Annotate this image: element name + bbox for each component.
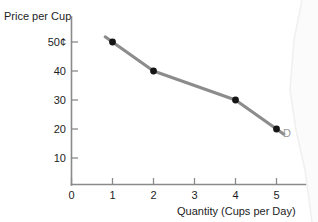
y-tick-label-40: 40: [54, 65, 66, 77]
x-tick-label-5: 5: [273, 189, 279, 201]
chart-background: [0, 0, 318, 222]
x-tick-label-0: 0: [68, 189, 74, 201]
y-tick-label-10: 10: [54, 152, 66, 164]
y-axis-title: Price per Cup: [4, 10, 71, 22]
data-point-marker: [109, 39, 116, 46]
x-axis-title: Quantity (Cups per Day): [177, 205, 296, 217]
data-point-marker: [232, 97, 239, 104]
y-tick-label-50: 50¢: [48, 36, 66, 48]
x-tick-label-4: 4: [232, 189, 238, 201]
chart-screenshot: Price per Cup 50¢ 40 30 20 10 0: [0, 0, 318, 222]
y-tick-label-20: 20: [54, 123, 66, 135]
x-tick-label-2: 2: [150, 189, 156, 201]
data-point-marker: [273, 126, 280, 133]
demand-curve-label: D: [283, 127, 291, 139]
demand-curve-chart: Price per Cup 50¢ 40 30 20 10 0: [0, 0, 318, 222]
x-tick-label-3: 3: [191, 189, 197, 201]
x-tick-label-1: 1: [109, 189, 115, 201]
data-point-marker: [150, 68, 157, 75]
y-tick-label-30: 30: [54, 94, 66, 106]
